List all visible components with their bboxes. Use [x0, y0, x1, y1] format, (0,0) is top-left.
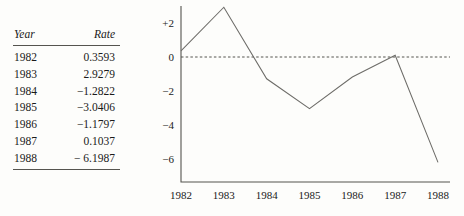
cell-rate: 2.9279 — [50, 66, 120, 83]
table-row: 1983 2.9279 — [13, 66, 120, 83]
cell-rate: −1.1797 — [50, 116, 120, 133]
table-header-row: Year Rate — [13, 28, 120, 46]
table-row: 1988 − 6.1987 — [13, 150, 120, 170]
x-tick-label: 1985 — [299, 189, 322, 201]
cell-year: 1987 — [13, 133, 50, 150]
rate-line-chart: +20−2−4−6 1982198319841985198619871988 — [150, 0, 464, 216]
cell-year: 1985 — [13, 99, 50, 116]
column-header-year: Year — [13, 28, 50, 46]
table-header: Year Rate — [13, 28, 120, 46]
cell-rate: − 6.1987 — [50, 150, 120, 170]
y-axis-tick-labels: +20−2−4−6 — [162, 17, 174, 165]
figure-page: Year Rate 1982 0.3593 1983 2.9279 1984 −… — [0, 0, 464, 216]
chart-axes — [181, 6, 450, 182]
x-tick-label: 1983 — [213, 189, 236, 201]
y-tick-label: −6 — [162, 153, 174, 165]
cell-rate: −3.0406 — [50, 99, 120, 116]
table-row: 1982 0.3593 — [13, 46, 120, 66]
cell-year: 1988 — [13, 150, 50, 170]
chart-svg: +20−2−4−6 1982198319841985198619871988 — [150, 0, 464, 216]
y-tick-label: −2 — [162, 85, 174, 97]
cell-year: 1984 — [13, 82, 50, 99]
table-row: 1985 −3.0406 — [13, 99, 120, 116]
y-tick-label: +2 — [162, 17, 174, 29]
column-header-rate: Rate — [50, 28, 120, 46]
cell-year: 1986 — [13, 116, 50, 133]
table-body: 1982 0.3593 1983 2.9279 1984 −1.2822 198… — [13, 46, 120, 170]
x-tick-label: 1984 — [256, 189, 279, 201]
table-row: 1986 −1.1797 — [13, 116, 120, 133]
x-tick-label: 1986 — [341, 189, 364, 201]
y-tick-label: −4 — [162, 119, 174, 131]
table-row: 1984 −1.2822 — [13, 82, 120, 99]
cell-rate: 0.1037 — [50, 133, 120, 150]
x-tick-label: 1988 — [427, 189, 450, 201]
table-row: 1987 0.1037 — [13, 133, 120, 150]
x-tick-label: 1982 — [170, 189, 192, 201]
rate-data-table: Year Rate 1982 0.3593 1983 2.9279 1984 −… — [13, 28, 120, 170]
cell-rate: 0.3593 — [50, 46, 120, 66]
x-tick-label: 1987 — [384, 189, 407, 201]
data-series-line — [181, 7, 438, 162]
y-tick-label: 0 — [169, 51, 175, 63]
table: Year Rate 1982 0.3593 1983 2.9279 1984 −… — [13, 28, 120, 170]
cell-year: 1982 — [13, 46, 50, 66]
cell-rate: −1.2822 — [50, 82, 120, 99]
x-axis-tick-labels: 1982198319841985198619871988 — [170, 189, 450, 201]
cell-year: 1983 — [13, 66, 50, 83]
